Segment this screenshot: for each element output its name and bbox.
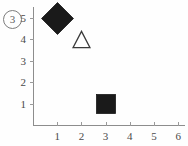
x-axis-tick-label: 2 [74,130,88,142]
x-axis-tick-label: 6 [171,130,185,142]
x-axis-tick-label: 5 [147,130,161,142]
triangle-point [72,30,91,49]
y-axis-tick-label: 4 [14,33,26,45]
y-axis-tick-label: 2 [14,76,26,88]
y-axis-tick-label: 1 [14,98,26,110]
x-axis-tick-label: 1 [50,130,64,142]
y-axis-tick [30,104,34,105]
x-axis-tick-label: 4 [123,130,137,142]
x-axis-tick-label: 3 [99,130,113,142]
y-axis-tick [30,18,34,19]
y-axis-tick-label: 5 [14,12,26,24]
x-axis-line [33,125,185,126]
x-axis-tick [57,122,58,126]
x-axis-tick [178,122,179,126]
square-point [96,94,116,114]
y-axis-line [33,7,34,126]
y-axis-tick-label: 3 [14,55,26,67]
y-axis-tick [30,82,34,83]
y-axis-tick [30,39,34,40]
y-axis-tick [30,61,34,62]
x-axis-tick [81,122,82,126]
x-axis-tick [106,122,107,126]
diamond-point [41,2,74,35]
x-axis-tick [130,122,131,126]
scatter-plot-figure: 3 12345612345 [0,0,188,146]
x-axis-tick [154,122,155,126]
